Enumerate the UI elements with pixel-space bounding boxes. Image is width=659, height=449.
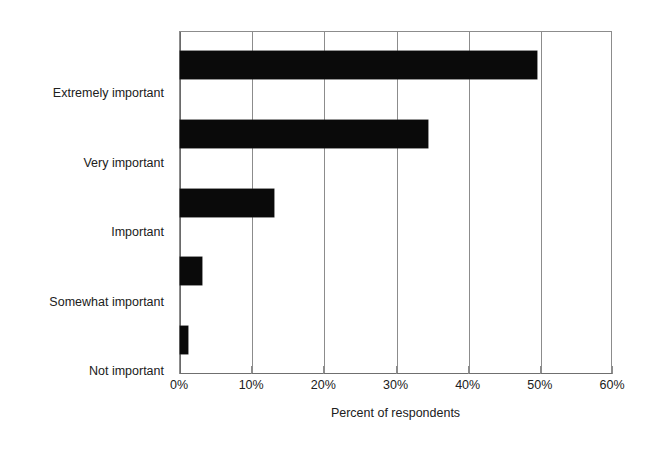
x-tick-50	[540, 366, 541, 374]
bar-extremely-important	[180, 51, 537, 79]
x-tick-label-10: 10%	[239, 378, 264, 393]
plot-area	[179, 31, 612, 374]
bar-chart: Extremely important Very important Impor…	[0, 0, 659, 449]
plot-inner	[180, 32, 611, 373]
bar-very-important	[180, 120, 428, 148]
x-tick-30	[396, 366, 397, 374]
x-tick-label-40: 40%	[455, 378, 480, 393]
category-label-extremely-important: Extremely important	[0, 86, 164, 100]
x-tick-20	[323, 366, 324, 374]
x-tick-label-0: 0%	[170, 378, 188, 393]
category-label-very-important: Very important	[0, 156, 164, 170]
bar-important	[180, 189, 274, 217]
x-tick-10	[251, 366, 252, 374]
bar-not-important	[180, 326, 188, 354]
bar-somewhat-important	[180, 257, 202, 285]
gridline-30	[397, 32, 398, 373]
category-label-important: Important	[0, 225, 164, 239]
x-tick-0	[179, 366, 180, 374]
x-tick-label-20: 20%	[311, 378, 336, 393]
gridline-40	[469, 32, 470, 373]
gridline-50	[541, 32, 542, 373]
category-label-not-important: Not important	[0, 364, 164, 378]
x-tick-label-60: 60%	[599, 378, 624, 393]
x-tick-40	[468, 366, 469, 374]
x-axis-title: Percent of respondents	[179, 406, 612, 421]
category-axis-labels: Extremely important Very important Impor…	[0, 31, 172, 374]
category-label-somewhat-important: Somewhat important	[0, 295, 164, 309]
x-tick-60	[612, 366, 613, 374]
x-tick-label-30: 30%	[383, 378, 408, 393]
gridline-20	[324, 32, 325, 373]
x-tick-label-50: 50%	[527, 378, 552, 393]
